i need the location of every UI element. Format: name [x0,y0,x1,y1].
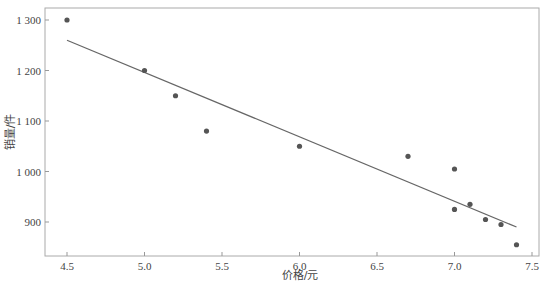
data-point [498,222,503,227]
x-tick-label: 7.0 [448,260,462,272]
y-tick-label: 1 300 [16,14,41,26]
data-point [483,217,488,222]
data-point [173,93,178,98]
data-point [514,242,519,247]
y-tick-label: 1 000 [16,166,41,178]
y-tick-label: 1 200 [16,65,41,77]
data-point [452,166,457,171]
x-tick-label: 5.5 [215,260,229,272]
plot-frame [45,8,539,256]
data-point [467,202,472,207]
data-point [204,129,209,134]
x-tick-label: 4.5 [60,260,74,272]
scatter-chart: 4.55.05.56.06.57.07.5 9001 0001 1001 200… [0,0,549,288]
x-tick-label: 7.5 [525,260,539,272]
data-points [64,17,519,247]
y-axis-label: 销量/件 [3,114,17,151]
x-tick-label: 6.5 [370,260,384,272]
data-point [405,154,410,159]
y-axis-ticks: 9001 0001 1001 2001 300 [16,14,49,228]
x-axis-label: 价格/元 [282,268,319,282]
regression-line [67,40,517,227]
regression-line-path [67,40,517,227]
data-point [452,207,457,212]
data-point [64,17,69,22]
x-tick-label: 5.0 [138,260,152,272]
data-point [142,68,147,73]
y-tick-label: 1 100 [16,115,41,127]
y-tick-label: 900 [25,216,42,228]
data-point [297,144,302,149]
